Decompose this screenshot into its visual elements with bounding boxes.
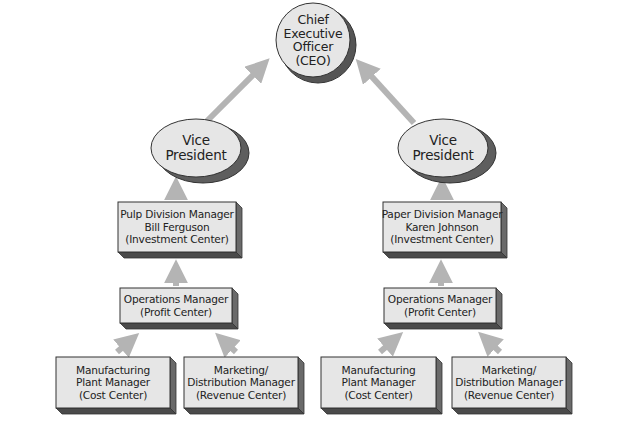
arrow-mkt-right-to-ops-right: [486, 339, 500, 352]
pulp-division-manager-name: Bill Ferguson: [144, 221, 209, 234]
pulp-division-title: Pulp Division Manager: [120, 208, 234, 221]
ceo-node: Chief Executive Officer (CEO): [276, 3, 350, 77]
pulp-division-center-type: (Investment Center): [125, 233, 229, 246]
mfg-left-line-1: Manufacturing: [76, 364, 150, 377]
vp-right-line-2: President: [412, 148, 473, 163]
mkt-right-line-2: Distribution Manager: [455, 376, 563, 389]
ceo-line-1: Chief: [297, 13, 328, 27]
ops-left-center-type: (Profit Center): [140, 306, 212, 319]
paper-division-title: Paper Division Manager: [382, 208, 503, 221]
mfg-right-center-type: (Cost Center): [344, 389, 412, 402]
ops-left-node: Operations Manager (Profit Center): [120, 288, 232, 323]
arrow-mfg-right-to-ops-right: [380, 339, 395, 352]
mfg-right-line-1: Manufacturing: [341, 364, 415, 377]
org-chart-diagram: Chief Executive Officer (CEO) Vice Presi…: [0, 0, 624, 427]
mkt-left-line-1: Marketing/: [214, 364, 268, 377]
mfg-right-node: Manufacturing Plant Manager (Cost Center…: [321, 357, 436, 408]
ops-right-center-type: (Profit Center): [404, 306, 476, 319]
mkt-left-line-2: Distribution Manager: [187, 376, 295, 389]
ops-right-node: Operations Manager (Profit Center): [384, 288, 496, 323]
mfg-right-line-2: Plant Manager: [342, 376, 416, 389]
ops-right-title: Operations Manager: [388, 293, 492, 306]
ceo-line-2: Executive: [283, 27, 342, 41]
mfg-left-line-2: Plant Manager: [76, 376, 150, 389]
paper-division-center-type: (Investment Center): [390, 233, 494, 246]
mfg-left-node: Manufacturing Plant Manager (Cost Center…: [56, 357, 170, 408]
ceo-line-4: (CEO): [295, 54, 330, 68]
vp-right-node: Vice President: [398, 119, 488, 177]
mkt-right-center-type: (Revenue Center): [464, 389, 554, 402]
mkt-left-center-type: (Revenue Center): [196, 389, 286, 402]
mkt-left-node: Marketing/ Distribution Manager (Revenue…: [184, 357, 298, 408]
arrow-vp-left-to-ceo: [207, 66, 262, 121]
vp-left-node: Vice President: [151, 119, 241, 177]
mkt-right-line-1: Marketing/: [482, 364, 536, 377]
arrow-vp-right-to-ceo: [363, 67, 414, 123]
pulp-division-node: Pulp Division Manager Bill Ferguson (Inv…: [118, 202, 236, 252]
vp-left-line-1: Vice: [182, 133, 210, 148]
ceo-line-3: Officer: [293, 40, 333, 54]
vp-left-line-2: President: [165, 148, 226, 163]
arrow-mkt-left-to-ops-left: [223, 340, 236, 352]
vp-right-line-1: Vice: [429, 133, 457, 148]
paper-division-node: Paper Division Manager Karen Johnson (In…: [383, 202, 501, 252]
ops-left-title: Operations Manager: [124, 293, 228, 306]
mkt-right-node: Marketing/ Distribution Manager (Revenue…: [452, 357, 566, 408]
paper-division-manager-name: Karen Johnson: [405, 221, 478, 234]
mfg-left-center-type: (Cost Center): [79, 389, 147, 402]
arrow-mfg-left-to-ops-left: [117, 340, 131, 352]
